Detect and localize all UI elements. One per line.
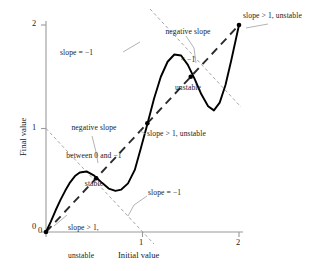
x-tick-label-1: 1 [139, 238, 143, 247]
leader-slope-m1-upper [123, 42, 140, 52]
fixed-point-dot [44, 230, 49, 235]
annotation-slope-gt-1-unstable-top-right: slope > 1, unstable [243, 11, 331, 20]
annotation-line: unstable [150, 83, 226, 92]
annotation-negative-slope-between-0-and-minus-1: negative slope between 0 and −1 stable [46, 105, 142, 206]
annotation-slope-equals-minus-one-upper: slope = −1 [60, 48, 122, 57]
annotation-line: < −1 [150, 55, 226, 64]
annotation-negative-slope-lt-minus-one: negative slope < −1 unstable [150, 9, 226, 110]
y-tick-label-1: 1 [32, 123, 36, 132]
figure-container: 0 1 2 0 1 2 Initial value Final value ne… [0, 0, 334, 271]
annotation-slope-gt-1-unstable-center: slope > 1, unstable [147, 129, 229, 138]
fixed-point-dot [145, 121, 150, 126]
annotation-slope-gt-1-unstable-bottom-left: slope > 1, unstable [68, 205, 126, 271]
annotation-line: stable [46, 179, 142, 188]
x-tick-label-0: 0 [38, 226, 42, 235]
annotation-line: negative slope [46, 123, 142, 132]
x-tick-label-2: 2 [236, 238, 240, 247]
annotation-line: slope > 1, [68, 223, 126, 232]
leader-top-right [246, 24, 268, 28]
annotation-line: unstable [68, 251, 126, 260]
fixed-point-dot [237, 23, 242, 28]
annotation-line: between 0 and −1 [46, 151, 142, 160]
annotation-line: negative slope [150, 27, 226, 36]
y-tick-label-0: 0 [32, 222, 36, 231]
annotation-slope-equals-minus-one-lower: slope = −1 [148, 188, 210, 197]
y-axis-title: Final value [18, 118, 28, 156]
y-tick-label-2: 2 [32, 19, 36, 28]
